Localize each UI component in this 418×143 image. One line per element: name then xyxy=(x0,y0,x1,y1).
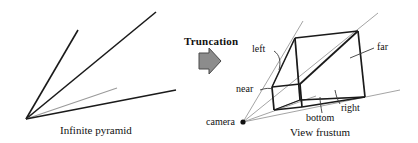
pyramid-ray-upper-right xyxy=(26,12,156,119)
label-camera: camera xyxy=(206,117,235,127)
leader-far xyxy=(350,48,374,58)
pyramid-ray-lower-right xyxy=(26,90,176,119)
infinite-pyramid-group xyxy=(26,12,176,119)
near-edge-left xyxy=(272,87,274,110)
frustum-figure: Truncation Infinite pyramid View frustum… xyxy=(0,0,418,143)
truncation-arrow-icon xyxy=(199,48,221,74)
truncation-label: Truncation xyxy=(184,36,238,47)
leader-near xyxy=(260,88,273,90)
near-edge-top xyxy=(272,84,300,87)
label-left-plane: left xyxy=(252,44,265,54)
far-plane-quad xyxy=(295,31,365,100)
label-near-plane: near xyxy=(236,84,253,94)
camera-ray-bundle xyxy=(243,13,400,122)
view-frustum-group xyxy=(240,13,400,125)
infinite-pyramid-caption: Infinite pyramid xyxy=(60,125,132,136)
camera-point-icon xyxy=(240,119,245,124)
label-right-plane: right xyxy=(341,103,360,113)
side-edge-top-left xyxy=(272,38,295,87)
side-edge-top-right xyxy=(300,31,358,84)
pyramid-ray-upper-left xyxy=(26,30,78,119)
far-edge-left xyxy=(295,38,300,100)
label-far-plane: far xyxy=(377,42,388,52)
view-frustum-caption: View frustum xyxy=(290,127,350,138)
label-bottom-plane: bottom xyxy=(306,113,334,123)
far-edge-right xyxy=(358,31,365,97)
